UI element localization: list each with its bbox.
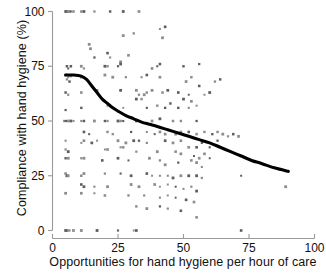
data-point [135, 205, 137, 207]
data-point [106, 131, 108, 133]
data-point [180, 120, 182, 122]
data-point [135, 151, 137, 153]
data-point [201, 177, 203, 179]
data-point [201, 166, 203, 168]
data-point [124, 142, 127, 145]
data-point [138, 185, 141, 188]
plot-area: 02550751000255075100 [0, 0, 326, 277]
data-point [203, 153, 206, 156]
y-tick-label: 0 [38, 224, 45, 238]
data-point [64, 192, 67, 195]
data-point [188, 107, 190, 109]
data-point [127, 194, 129, 196]
data-point [153, 183, 156, 186]
data-point [109, 56, 111, 58]
data-point [67, 120, 70, 123]
data-point [161, 36, 164, 39]
data-point [106, 120, 108, 122]
data-point [68, 229, 70, 231]
data-point [119, 120, 122, 123]
data-point [122, 34, 125, 37]
data-point [208, 91, 211, 94]
data-point [146, 74, 149, 77]
data-point [88, 133, 90, 135]
data-point [117, 139, 120, 142]
data-point [67, 94, 69, 96]
data-point [180, 139, 183, 142]
data-point [112, 133, 114, 135]
data-point [175, 186, 177, 188]
data-point [122, 146, 125, 149]
data-point [156, 150, 159, 153]
data-point [68, 80, 70, 82]
data-point [80, 175, 82, 177]
data-point [172, 177, 175, 180]
data-point [156, 104, 158, 106]
data-point [161, 91, 164, 94]
data-point [83, 185, 86, 188]
data-point [159, 159, 161, 161]
data-point [180, 210, 183, 213]
data-point [164, 107, 166, 109]
data-point [214, 80, 216, 82]
data-point [130, 174, 133, 177]
data-point [151, 175, 153, 177]
data-point [133, 230, 135, 232]
data-point [179, 174, 182, 177]
data-point [122, 107, 124, 109]
data-point [180, 152, 183, 155]
x-tick-label: 25 [111, 241, 125, 255]
data-point [164, 26, 167, 29]
data-point [146, 172, 149, 175]
data-point [93, 56, 95, 58]
data-point [93, 120, 96, 123]
data-point [106, 52, 109, 55]
data-point [80, 10, 83, 13]
data-point [65, 109, 67, 111]
data-point [193, 201, 196, 204]
data-point [177, 91, 180, 94]
data-point [109, 10, 111, 12]
data-point [164, 133, 167, 136]
data-point [80, 157, 82, 159]
data-point [167, 208, 169, 210]
data-point [145, 207, 148, 210]
data-point [72, 120, 74, 122]
data-point [104, 120, 106, 122]
data-point [140, 98, 142, 100]
data-point [159, 205, 161, 207]
data-point [83, 157, 86, 160]
y-tick-label: 25 [31, 169, 45, 183]
data-point [117, 120, 120, 123]
data-point [70, 10, 72, 12]
data-point [80, 142, 82, 144]
loess-trend-line [66, 75, 289, 171]
data-point [146, 131, 148, 133]
data-point [195, 133, 197, 135]
data-point [148, 157, 151, 160]
data-point [119, 63, 122, 66]
data-point [164, 139, 167, 142]
data-point [88, 43, 91, 46]
data-point [125, 76, 127, 78]
data-point [146, 142, 148, 144]
data-point [80, 120, 82, 122]
data-point [83, 120, 85, 122]
data-point [219, 78, 221, 80]
x-tick-label: 50 [177, 241, 191, 255]
data-point [209, 146, 211, 148]
data-point [80, 107, 82, 109]
data-point [193, 155, 195, 157]
data-point [182, 65, 184, 67]
data-point [130, 131, 132, 133]
data-point [187, 174, 190, 177]
data-point [240, 175, 242, 177]
data-point [130, 183, 133, 186]
data-point [93, 10, 95, 12]
data-point [64, 148, 66, 150]
data-point [80, 229, 83, 232]
data-point [135, 98, 138, 101]
data-point [159, 117, 162, 120]
data-point [175, 197, 177, 199]
data-point [127, 54, 130, 57]
